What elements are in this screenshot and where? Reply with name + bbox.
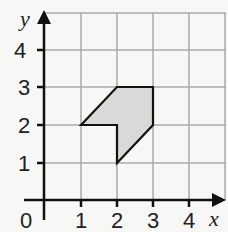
shaded-shape [81, 87, 153, 163]
y-tick-label: 3 [18, 75, 30, 100]
coordinate-grid-diagram: y x 0 1 2 3 4 1 2 3 4 [0, 0, 228, 232]
y-axis-arrow-icon [37, 10, 51, 24]
x-axis-label: x [208, 206, 219, 231]
x-tick-label: 1 [75, 208, 87, 232]
x-tick-label: 3 [147, 208, 159, 232]
y-axis-label: y [18, 6, 30, 31]
origin-label: 0 [20, 208, 32, 232]
x-tick-label: 4 [183, 208, 195, 232]
y-tick-label: 4 [14, 38, 26, 63]
y-tick-label: 2 [18, 113, 30, 138]
y-tick-label: 1 [18, 151, 30, 176]
x-axis-arrow-icon [212, 193, 226, 207]
x-tick-label: 2 [111, 208, 123, 232]
